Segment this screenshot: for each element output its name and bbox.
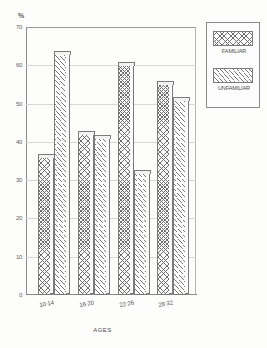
y-tick-label: 0	[6, 292, 22, 298]
y-tick-label: 20	[6, 215, 22, 221]
legend: FAMILIAR UNFAMILIAR	[206, 22, 260, 108]
bars-layer	[26, 27, 196, 295]
legend-entry-familiar: FAMILIAR	[213, 31, 255, 54]
legend-label-unfamiliar: UNFAMILIAR	[213, 85, 255, 91]
x-tick-label: 16-20	[79, 300, 94, 308]
scanned-chart-page: % 706050403020100 10-1416-2022-2628-32 A…	[0, 0, 267, 348]
legend-swatch-unfamiliar	[213, 68, 253, 83]
bar	[157, 84, 170, 295]
bar-top-face	[118, 62, 135, 66]
x-tick-label: 10-14	[39, 300, 54, 308]
x-axis-title: AGES	[0, 327, 205, 333]
bar-top-face	[134, 170, 151, 174]
bar-side-face	[106, 136, 110, 294]
bar-top-face	[54, 51, 71, 55]
bar-top-face	[38, 154, 55, 158]
bar-side-face	[66, 52, 70, 294]
y-tick-label: 60	[6, 62, 22, 68]
y-tick-label: 70	[6, 24, 22, 30]
y-tick-label: 40	[6, 139, 22, 145]
bar-top-face	[78, 131, 95, 135]
legend-label-familiar: FAMILIAR	[213, 48, 255, 54]
y-axis-unit-label: %	[18, 12, 24, 19]
legend-swatch-familiar	[213, 31, 253, 46]
bar-top-face	[94, 135, 111, 139]
y-tick-label: 10	[6, 254, 22, 260]
bar	[78, 134, 91, 295]
bar-side-face	[185, 98, 189, 294]
bar	[173, 100, 186, 295]
x-tick-label: 28-32	[158, 300, 173, 308]
x-tick-label: 22-26	[119, 300, 134, 308]
bar	[134, 173, 147, 296]
bar	[94, 138, 107, 295]
bar-top-face	[173, 97, 190, 101]
bar	[118, 65, 131, 295]
bar	[38, 157, 51, 295]
bar-side-face	[146, 171, 150, 295]
bar	[54, 54, 67, 295]
y-tick-label: 30	[6, 177, 22, 183]
y-tick-label: 50	[6, 101, 22, 107]
grouped-bar-chart: % 706050403020100 10-1416-2022-2628-32 A…	[0, 0, 267, 348]
legend-entry-unfamiliar: UNFAMILIAR	[213, 68, 255, 91]
bar-top-face	[157, 81, 174, 85]
